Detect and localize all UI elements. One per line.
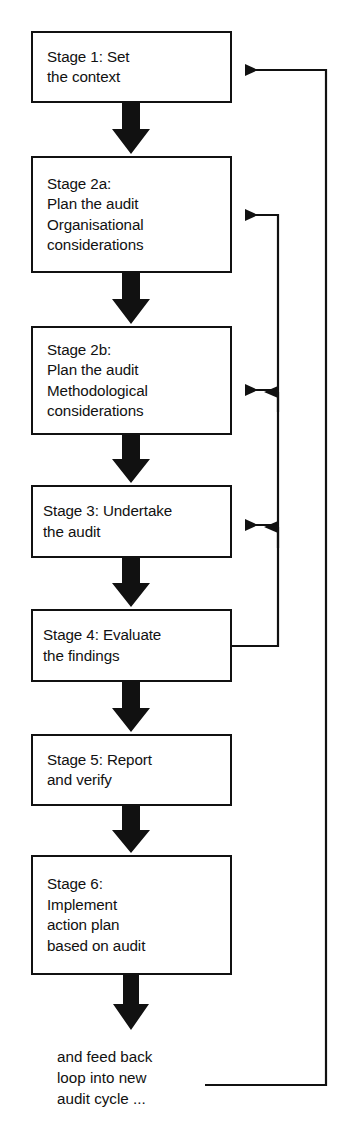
node-stage6-label: Stage 6: Implement action plan based on … xyxy=(33,874,145,956)
down-arrow-stage3-stage4 xyxy=(112,558,150,607)
feedback-loop-into-stage2b xyxy=(245,390,278,412)
feedback-loop-stage4-to-stage2a xyxy=(232,215,278,646)
node-stage3-label: Stage 3: Undertake the audit xyxy=(33,501,172,542)
node-stage2b-label: Stage 2b: Plan the audit Methodological … xyxy=(33,340,148,422)
node-stage5-label: Stage 5: Report and verify xyxy=(33,750,152,791)
down-arrow-stage2a-stage2b xyxy=(112,273,150,324)
node-stage3[interactable]: Stage 3: Undertake the audit xyxy=(31,485,232,558)
flowchart-diagram: Stage 1: Set the context Stage 2a: Plan … xyxy=(0,0,343,1136)
node-stage2b[interactable]: Stage 2b: Plan the audit Methodological … xyxy=(31,326,232,435)
node-stage2a-label: Stage 2a: Plan the audit Organisational … xyxy=(33,174,144,256)
down-arrow-stage6-tail-note xyxy=(113,975,149,1030)
node-stage6[interactable]: Stage 6: Implement action plan based on … xyxy=(31,855,232,975)
tail-note-text: and feed back loop into new audit cycle … xyxy=(57,1046,152,1109)
node-stage1[interactable]: Stage 1: Set the context xyxy=(31,31,232,103)
feedback-loop-into-stage3 xyxy=(245,525,278,548)
node-stage4-label: Stage 4: Evaluate the findings xyxy=(33,625,161,666)
node-stage2a[interactable]: Stage 2a: Plan the audit Organisational … xyxy=(31,156,232,273)
node-stage1-label: Stage 1: Set the context xyxy=(33,47,129,88)
down-arrow-stage4-stage5 xyxy=(112,682,150,732)
node-stage5[interactable]: Stage 5: Report and verify xyxy=(31,734,232,806)
down-arrow-stage5-stage6 xyxy=(112,806,150,853)
down-arrow-stage1-stage2a xyxy=(112,103,150,154)
node-stage4[interactable]: Stage 4: Evaluate the findings xyxy=(31,609,232,682)
down-arrow-stage2b-stage3 xyxy=(112,435,150,483)
